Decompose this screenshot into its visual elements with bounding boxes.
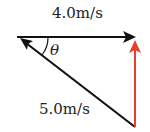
horizontal-vector-arrow [17,31,136,43]
diagonal-vector-label: 5.0m/s [39,100,90,118]
angle-theta-label: θ [50,41,59,59]
angle-arc [42,37,48,55]
top-vector-label: 4.0m/s [52,4,103,22]
vertical-red-vector-arrow [129,40,141,127]
